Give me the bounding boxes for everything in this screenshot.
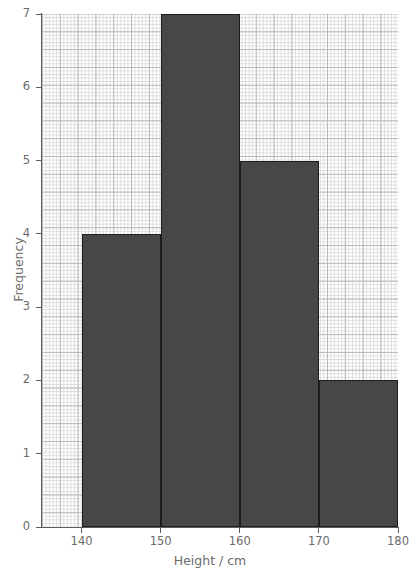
x-tick-label: 140 [62,536,102,548]
x-tick-mark [239,528,240,533]
y-tick-mark [36,527,41,528]
y-tick-mark [36,307,41,308]
y-tick-mark [36,160,41,161]
y-tick-label: 1 [2,448,30,460]
y-tick-label: 6 [2,81,30,93]
y-tick-mark [36,14,41,15]
y-tick-mark [36,453,41,454]
x-tick-mark [160,528,161,533]
histogram-bar [161,14,240,527]
y-tick-mark [36,380,41,381]
histogram-bar [319,380,398,527]
x-tick-label: 170 [299,536,339,548]
x-tick-label: 180 [378,536,418,548]
x-tick-label: 160 [220,536,260,548]
bars-layer [42,14,398,527]
x-tick-label: 150 [141,536,181,548]
y-axis-title: Frequency [11,210,26,330]
histogram-chart: 01234567 140150160170180 Height / cm Fre… [0,0,420,575]
x-tick-mark [318,528,319,533]
y-tick-label: 5 [2,155,30,167]
x-tick-mark [398,528,399,533]
histogram-bar [82,234,161,527]
y-tick-label: 0 [2,521,30,533]
x-tick-mark [81,528,82,533]
y-tick-mark [36,233,41,234]
x-axis-line [41,527,399,528]
y-tick-label: 7 [2,8,30,20]
histogram-bar [240,161,319,527]
plot-area [42,14,398,527]
x-axis-title: Height / cm [0,553,420,568]
y-tick-mark [36,87,41,88]
y-axis-line [41,13,42,528]
y-tick-label: 2 [2,374,30,386]
